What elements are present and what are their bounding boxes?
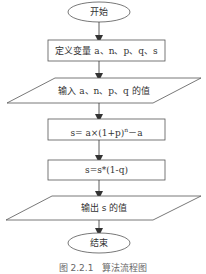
define-label: 定义变量 a、n、p、q、s <box>48 45 165 57</box>
start-label: 开始 <box>68 6 130 18</box>
calc1-label-prefix: s= a×(1+p) <box>70 128 124 138</box>
figure-caption: 图 2.2.1 算法流程图 <box>0 262 206 274</box>
end-label: 结束 <box>68 237 130 249</box>
calc2-label: s=s*(1-q) <box>48 164 165 176</box>
calc1-label-suffix: －a <box>128 128 142 138</box>
output-label: 输出 s 的值 <box>30 202 178 214</box>
input-label: 输入 a、n、p、q 的值 <box>30 85 178 97</box>
calc1-label: s= a×(1+p)n－a <box>48 124 165 139</box>
